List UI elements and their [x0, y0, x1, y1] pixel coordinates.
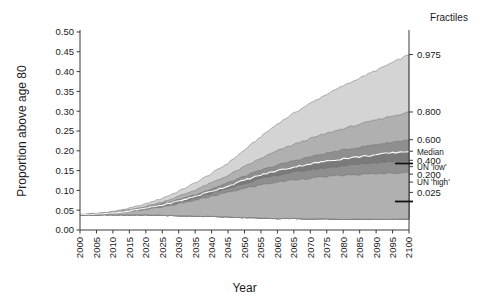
x-tick-label: 2025	[157, 237, 168, 258]
x-axis-title: Year	[232, 281, 256, 295]
x-tick-label: 2040	[206, 237, 217, 258]
y-tick-label: 0.00	[56, 224, 75, 235]
fractile-label-0-800: 0.800	[417, 106, 441, 117]
y-tick-label: 0.15	[56, 165, 75, 176]
x-tick-label: 2015	[124, 237, 135, 258]
x-tick-label: 2075	[321, 237, 332, 258]
fractile-label-0-600: 0.600	[417, 134, 441, 145]
y-tick-label: 0.40	[56, 66, 75, 77]
x-tick-label: 2060	[272, 237, 283, 258]
x-tick-label: 2100	[403, 237, 414, 258]
y-tick-label: 0.30	[56, 106, 75, 117]
y-tick-label: 0.20	[56, 145, 75, 156]
x-tick-label: 2070	[305, 237, 316, 258]
x-tick-label: 2085	[354, 237, 365, 258]
x-tick-label: 2035	[190, 237, 201, 258]
x-tick-label: 2090	[371, 237, 382, 258]
y-tick-label: 0.05	[56, 205, 75, 216]
fractile-label-0-025: 0.025	[417, 187, 441, 198]
x-tick-label: 2065	[288, 237, 299, 258]
y-tick-label: 0.50	[56, 26, 75, 37]
x-tick-label: 2030	[173, 237, 184, 258]
y-tick-label: 0.45	[56, 46, 75, 57]
x-tick-label: 2050	[239, 237, 250, 258]
x-tick-label: 2000	[74, 237, 85, 258]
fractile-label-0-975: 0.975	[417, 49, 441, 60]
x-tick-label: 2010	[107, 237, 118, 258]
x-tick-label: 2095	[387, 237, 398, 258]
x-tick-label: 2055	[255, 237, 266, 258]
fractiles-legend-title: Fractiles	[430, 12, 468, 23]
fan-chart-figure: 0.000.050.100.150.200.250.300.350.400.45…	[0, 0, 491, 299]
x-tick-label: 2045	[222, 237, 233, 258]
x-tick-label: 2080	[338, 237, 349, 258]
y-tick-label: 0.35	[56, 86, 75, 97]
y-axis-title: Proportion above age 80	[15, 65, 29, 197]
y-tick-label: 0.25	[56, 125, 75, 136]
proportion-above-age-80-fan-chart: 0.000.050.100.150.200.250.300.350.400.45…	[0, 0, 491, 299]
y-tick-label: 0.10	[56, 185, 75, 196]
x-tick-label: 2020	[140, 237, 151, 258]
x-tick-label: 2005	[91, 237, 102, 258]
